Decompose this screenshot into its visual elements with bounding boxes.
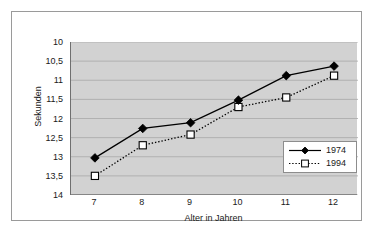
legend-item-1974: 1974 [287,144,353,157]
data-point-1974 [138,124,147,133]
chart-figure: Sekunden 1010,51111,51212,51313,514 7891… [0,0,375,233]
data-point-1994 [139,142,146,149]
x-axis-tick-labels: 789101112 [70,198,357,212]
y-tick-label: 10,5 [45,57,63,66]
figure-frame: Sekunden 1010,51111,51212,51313,514 7891… [11,11,362,221]
data-point-1974 [91,154,100,163]
legend-label-1994: 1994 [326,159,346,168]
data-point-1994 [283,94,290,101]
x-axis-title: Alter in Jahren [70,214,357,223]
legend-swatch-solid-diamond-icon [287,144,323,157]
data-point-1994 [91,172,98,179]
x-tick-label: 10 [232,198,242,207]
data-point-1974 [186,118,195,127]
x-tick-label: 11 [281,198,290,207]
x-tick-label: 7 [91,198,96,207]
y-tick-label: 10 [53,38,63,47]
y-tick-label: 11,5 [46,95,63,104]
chart-legend: 1974 1994 [283,141,357,173]
y-tick-label: 12 [53,114,63,123]
data-point-1994 [187,131,194,138]
y-tick-label: 13,5 [45,171,63,180]
y-tick-label: 14 [53,191,63,200]
y-tick-label: 11 [54,76,63,85]
y-tick-label: 12,5 [45,133,63,142]
legend-item-1994: 1994 [287,157,353,170]
x-tick-label: 8 [139,198,144,207]
legend-swatch-dotted-square-icon [287,157,323,170]
data-point-1974 [282,71,291,80]
x-tick-label: 9 [187,198,192,207]
legend-label-1974: 1974 [326,146,346,155]
data-point-1974 [330,62,339,71]
y-axis-tick-labels: 1010,51111,51212,51313,514 [23,42,67,195]
x-tick-label: 12 [328,198,338,207]
data-point-1994 [330,72,337,79]
y-tick-label: 13 [53,152,63,161]
